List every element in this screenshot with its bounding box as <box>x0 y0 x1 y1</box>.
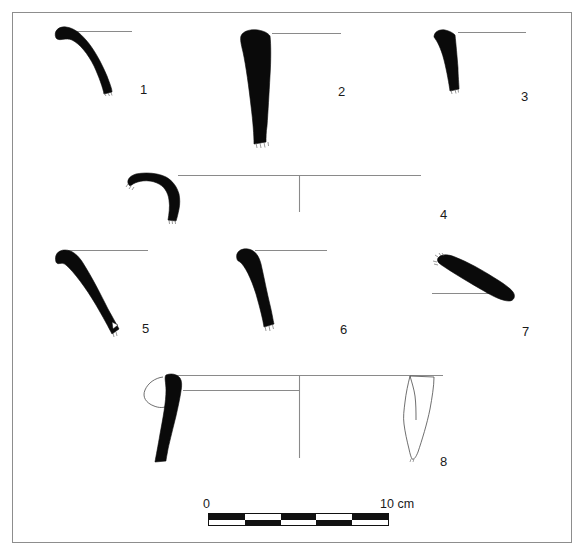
item-8-exterior-outline-top-edge <box>410 376 434 377</box>
item-6-profile-section <box>237 249 274 327</box>
scale-cell-bottom-2 <box>245 520 281 526</box>
pottery-plate-figure: 1 2 3 4 5 6 7 8 0 10 cm <box>0 0 583 550</box>
item-1-drawing <box>55 27 132 96</box>
scale-start-label: 0 <box>203 498 210 511</box>
item-8-exterior-outline-right <box>404 376 434 459</box>
item-number-label-5: 5 <box>142 322 149 335</box>
scale-cell-bottom-3 <box>281 520 317 526</box>
item-8-exterior-outline-inner-fold <box>410 376 416 420</box>
item-number-label-6: 6 <box>340 323 347 336</box>
pottery-profiles-drawing <box>0 0 583 550</box>
item-5-profile-section <box>55 250 119 334</box>
item-4-profile-section <box>128 173 180 221</box>
item-number-label-7: 7 <box>522 325 529 338</box>
item-number-label-1: 1 <box>140 83 147 96</box>
scale-bar <box>208 513 389 526</box>
item-8-drawing <box>144 374 443 462</box>
item-6-drawing <box>237 249 327 331</box>
scale-cell-bottom-1 <box>209 520 245 526</box>
item-5-drawing <box>55 250 148 337</box>
item-8-profile-section <box>155 374 182 462</box>
scale-end-label: 10 cm <box>380 498 414 511</box>
item-7-drawing <box>432 253 514 301</box>
item-number-label-8: 8 <box>440 455 447 468</box>
item-7-profile-section <box>437 255 514 301</box>
scale-cell-bottom-5 <box>352 520 388 526</box>
item-number-label-4: 4 <box>440 208 447 221</box>
item-2-profile-section <box>241 30 271 144</box>
item-3-drawing <box>434 30 526 94</box>
item-4-drawing <box>126 173 421 224</box>
item-8-lug-outline-left <box>144 377 167 408</box>
item-number-label-2: 2 <box>338 85 345 98</box>
item-2-drawing <box>241 30 341 148</box>
scale-cell-bottom-4 <box>316 520 352 526</box>
item-3-profile-section <box>434 30 459 91</box>
item-1-profile-section <box>55 27 112 94</box>
scale-bar-bottom-row <box>209 520 388 526</box>
item-number-label-3: 3 <box>521 90 528 103</box>
